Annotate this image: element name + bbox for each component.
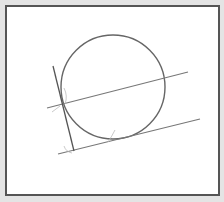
geometry-construction bbox=[0, 0, 224, 202]
construction-arc bbox=[64, 88, 66, 104]
tangent-line bbox=[58, 119, 200, 154]
secant-line bbox=[47, 72, 188, 108]
circle bbox=[61, 35, 165, 139]
